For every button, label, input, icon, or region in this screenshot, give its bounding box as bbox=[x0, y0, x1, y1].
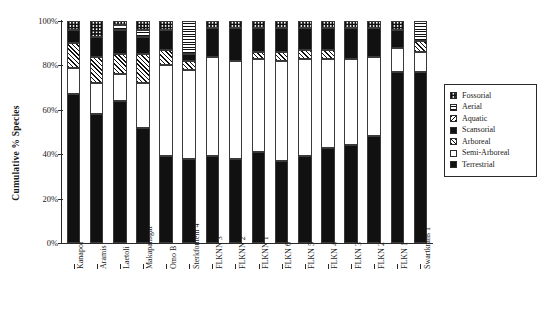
bar bbox=[414, 21, 428, 243]
x-tick-label: Kanapoi bbox=[68, 268, 79, 317]
x-tick-label: Sterkfontein 4 bbox=[184, 268, 195, 317]
bar bbox=[367, 21, 381, 243]
bar-segment bbox=[113, 101, 127, 243]
bar-segment bbox=[136, 83, 150, 127]
y-tick-mark bbox=[58, 199, 63, 200]
bar-segment bbox=[113, 30, 127, 54]
legend-item: Semi-Arboreal bbox=[450, 148, 532, 160]
x-tick-label: Swartkrans 1 bbox=[415, 268, 426, 317]
bar-segment bbox=[90, 37, 104, 57]
bar-segment bbox=[252, 28, 266, 52]
bar bbox=[90, 21, 104, 243]
bar-segment bbox=[252, 21, 266, 28]
y-tick-mark bbox=[58, 154, 63, 155]
y-axis-title: Cumulative % Species bbox=[8, 88, 24, 218]
bar-segment bbox=[159, 50, 173, 66]
bar-segment bbox=[367, 21, 381, 28]
legend-swatch-icon bbox=[450, 115, 457, 122]
bar-segment bbox=[90, 114, 104, 243]
bar-segment bbox=[229, 21, 243, 28]
bar-segment bbox=[136, 37, 150, 55]
bar-segment bbox=[67, 94, 81, 243]
legend-label: Aerial bbox=[462, 103, 482, 111]
bar-segment bbox=[298, 50, 312, 59]
bar-segment bbox=[344, 59, 358, 146]
legend-item: Terrestrial bbox=[450, 159, 532, 171]
x-tick-label: Makapansgat bbox=[137, 268, 148, 317]
bar bbox=[113, 21, 127, 243]
bar-segment bbox=[252, 59, 266, 152]
legend-item: Aerial bbox=[450, 102, 532, 114]
x-tick-label: FLKN 5 bbox=[299, 268, 310, 317]
legend-item: Scansorial bbox=[450, 125, 532, 137]
bar-segment bbox=[391, 21, 405, 30]
legend-item: Arboreal bbox=[450, 136, 532, 148]
bar-segment bbox=[391, 48, 405, 72]
bar-segment bbox=[414, 21, 428, 41]
y-tick-mark bbox=[58, 65, 63, 66]
bar bbox=[159, 21, 173, 243]
bar-segment bbox=[136, 30, 150, 37]
legend-item: Aquatic bbox=[450, 113, 532, 125]
x-tick-label: FLKN 1 bbox=[392, 268, 403, 317]
bar-segment bbox=[367, 28, 381, 57]
legend-swatch-icon bbox=[450, 127, 457, 134]
bar-segment bbox=[113, 74, 127, 101]
bar-segment bbox=[275, 52, 289, 61]
bar-segment bbox=[67, 68, 81, 95]
bar bbox=[67, 21, 81, 243]
bar-segment bbox=[182, 54, 196, 61]
bar-segment bbox=[159, 156, 173, 243]
bar-segment bbox=[67, 30, 81, 43]
legend-label: Fossorial bbox=[462, 92, 491, 100]
bar-segment bbox=[90, 57, 104, 84]
bar-segment bbox=[321, 50, 335, 59]
x-tick-label: FLKN 2 bbox=[369, 268, 380, 317]
bar-segment bbox=[159, 30, 173, 50]
x-tick-label: FLKN 3 bbox=[346, 268, 357, 317]
bar bbox=[298, 21, 312, 243]
legend-label: Semi-Arboreal bbox=[462, 149, 510, 157]
x-tick-label: FLKNN 3 bbox=[207, 268, 218, 317]
bar bbox=[206, 21, 220, 243]
bar-segment bbox=[182, 21, 196, 54]
bar-segment bbox=[90, 83, 104, 114]
bar-segment bbox=[275, 161, 289, 243]
legend-label: Terrestrial bbox=[462, 161, 495, 169]
bar bbox=[275, 21, 289, 243]
bar-segment bbox=[367, 57, 381, 137]
bar-segment bbox=[414, 52, 428, 72]
bar-segment bbox=[206, 21, 220, 28]
x-tick-label: Laetoli bbox=[114, 268, 125, 317]
bar bbox=[391, 21, 405, 243]
bar-segment bbox=[344, 21, 358, 28]
bar-segment bbox=[275, 28, 289, 52]
bar-segment bbox=[159, 21, 173, 30]
bar-segment bbox=[298, 156, 312, 243]
legend-swatch-icon bbox=[450, 150, 457, 157]
legend-label: Aquatic bbox=[462, 115, 487, 123]
plot-area: 0%20%40%60%80%100% KanapoiAramisLaetoliM… bbox=[62, 21, 432, 243]
bar-segment bbox=[298, 21, 312, 28]
y-axis-title-text: Cumulative % Species bbox=[11, 105, 21, 200]
bar-segment bbox=[136, 54, 150, 83]
bar bbox=[136, 21, 150, 243]
bar-segment bbox=[275, 21, 289, 28]
bar bbox=[252, 21, 266, 243]
bar-segment bbox=[252, 152, 266, 243]
bar-segment bbox=[113, 21, 127, 25]
y-tick-mark bbox=[58, 243, 63, 244]
legend-label: Scansorial bbox=[462, 126, 495, 134]
bar-segment bbox=[321, 28, 335, 50]
bar-segment bbox=[136, 21, 150, 30]
bar-segment bbox=[206, 156, 220, 243]
bar-segment bbox=[391, 72, 405, 243]
bar-segment bbox=[298, 59, 312, 157]
legend-swatch-icon bbox=[450, 104, 457, 111]
bar-segment bbox=[182, 70, 196, 159]
bar-segment bbox=[159, 65, 173, 156]
bar-segment bbox=[206, 57, 220, 157]
bar-segment bbox=[367, 136, 381, 243]
bar bbox=[321, 21, 335, 243]
x-tick-label: FLKNN 2 bbox=[230, 268, 241, 317]
